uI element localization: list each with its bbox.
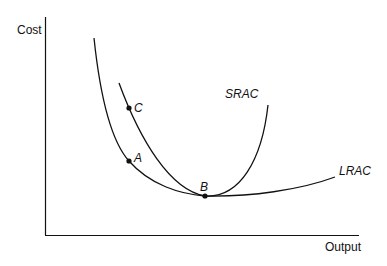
lrac-label: LRAC — [339, 164, 371, 178]
y-axis-label: Cost — [17, 23, 42, 37]
srac-label: SRAC — [225, 87, 259, 101]
point-b-marker — [202, 193, 207, 198]
point-a-label: A — [133, 151, 142, 165]
point-a-marker — [126, 158, 131, 163]
cost-curves-diagram: Cost Output SRAC LRAC A B C — [0, 0, 387, 266]
point-c-label: C — [134, 101, 143, 115]
lrac-curve — [94, 38, 335, 196]
point-c-marker — [126, 105, 131, 110]
point-b-label: B — [200, 180, 208, 194]
x-axis-label: Output — [325, 240, 362, 254]
